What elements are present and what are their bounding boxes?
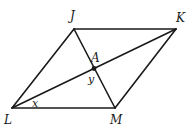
rhombus-diagram: J K L M A x y (0, 0, 190, 130)
intersection-point-a (92, 66, 97, 71)
vertex-label-l: L (3, 113, 12, 127)
angle-label-y: y (87, 73, 95, 86)
vertex-label-m: M (109, 113, 123, 127)
vertex-label-k: K (175, 11, 186, 25)
point-label-a: A (90, 51, 100, 65)
side-lj (12, 29, 74, 108)
angle-label-x: x (32, 97, 39, 110)
vertex-label-j: J (67, 9, 76, 23)
side-km (115, 29, 176, 108)
